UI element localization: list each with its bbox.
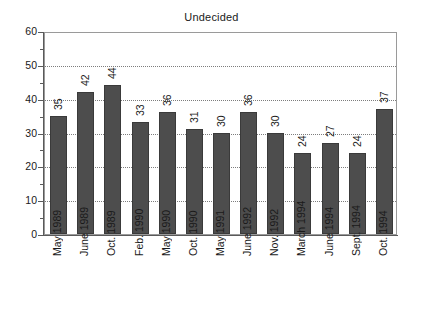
y-axis-tick-label: 60 <box>3 26 37 37</box>
bar-group: 30 <box>267 31 284 234</box>
bar-value-label: 44 <box>104 65 121 82</box>
bar-value-label: 30 <box>213 113 230 130</box>
y-axis-minor-tick <box>40 49 43 50</box>
y-axis-minor-tick <box>40 218 43 219</box>
x-axis-tick-label: Oct. 1990 <box>185 239 202 256</box>
x-axis-tick-labels: May 1989June 1989Oct. 1989Feb. 1990May 1… <box>44 237 397 316</box>
y-axis-tick-label: 20 <box>3 161 37 172</box>
bar-value-label: 27 <box>322 123 339 140</box>
x-axis-tick-label: June 1992 <box>239 239 256 256</box>
bar-group: 27 <box>322 31 339 234</box>
x-axis-tick-label: March 1994 <box>293 239 310 256</box>
y-axis-tick-label: 40 <box>3 94 37 105</box>
bar-value-label: 37 <box>376 89 393 106</box>
y-axis-tick-labels: 0102030405060 <box>0 0 37 316</box>
bar-group: 24 <box>349 31 366 234</box>
y-axis-tick <box>38 32 43 33</box>
bar-group: 30 <box>213 31 230 234</box>
y-axis-tick <box>38 167 43 168</box>
bar-group: 37 <box>376 31 393 234</box>
y-axis-tick-label: 50 <box>3 60 37 71</box>
x-axis-tick-label: June 1994 <box>321 239 338 256</box>
x-axis-tick-label: May 1989 <box>49 239 66 256</box>
bar-group: 33 <box>132 31 149 234</box>
y-axis-minor-tick <box>40 117 43 118</box>
y-axis-tick <box>38 201 43 202</box>
y-axis-minor-tick <box>40 150 43 151</box>
y-axis-tick-label: 10 <box>3 195 37 206</box>
bar-group: 31 <box>186 31 203 234</box>
y-axis-tick-label: 30 <box>3 128 37 139</box>
bar-value-label: 33 <box>132 102 149 119</box>
bar-value-label: 42 <box>77 72 94 89</box>
y-axis-tick <box>38 134 43 135</box>
bar-value-label: 36 <box>240 92 257 109</box>
x-axis-tick-label: Nov. 1992 <box>266 239 283 256</box>
bar-group: 35 <box>50 31 67 234</box>
plot-inner: 35424433363130363024272437 <box>45 33 396 234</box>
bar-group: 44 <box>104 31 121 234</box>
bar-value-label: 24 <box>349 133 366 150</box>
bar-group: 42 <box>77 31 94 234</box>
bar-value-label: 36 <box>159 92 176 109</box>
y-axis-minor-tick <box>40 83 43 84</box>
bar-group: 36 <box>159 31 176 234</box>
bar-value-label: 31 <box>186 109 203 126</box>
y-axis-tick <box>38 100 43 101</box>
bar-chart-figure: Undecided 0102030405060 3542443336313036… <box>0 0 423 316</box>
x-axis-tick-label: Sept. 1994 <box>348 239 365 256</box>
chart-title: Undecided <box>0 11 423 23</box>
x-axis-tick-label: May 1990 <box>158 239 175 256</box>
bar-value-label: 24 <box>294 133 311 150</box>
y-axis-tick <box>38 235 43 236</box>
x-axis-tick-label: May 1991 <box>212 239 229 256</box>
bar-group: 36 <box>240 31 257 234</box>
x-axis-tick-label: Oct. 1994 <box>375 239 392 256</box>
y-axis-tick <box>38 66 43 67</box>
x-axis-tick-label: Feb. 1990 <box>131 239 148 256</box>
x-axis-tick-label: Oct. 1989 <box>103 239 120 256</box>
bar-value-label: 35 <box>50 96 67 113</box>
bar-value-label: 30 <box>267 113 284 130</box>
y-axis-minor-tick <box>40 184 43 185</box>
y-axis-tick-label: 0 <box>3 229 37 240</box>
plot-area: 35424433363130363024272437 <box>44 32 397 235</box>
x-axis-tick-label: June 1989 <box>76 239 93 256</box>
